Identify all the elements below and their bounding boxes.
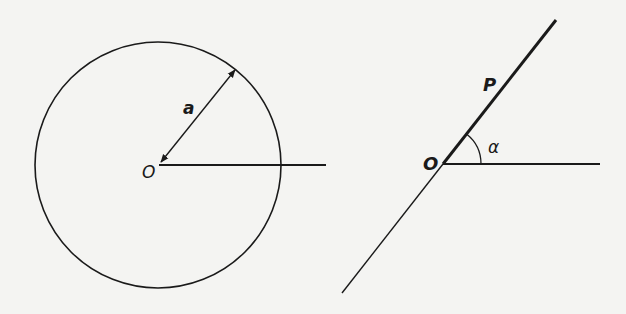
angle-label: α xyxy=(488,137,499,157)
origin-label: O xyxy=(142,162,155,182)
ray-op xyxy=(443,20,556,164)
radius-label: a xyxy=(183,98,194,118)
point-label: P xyxy=(483,74,496,95)
radius-arrow xyxy=(161,70,235,162)
angle-arc xyxy=(467,134,482,164)
extension-line xyxy=(342,164,443,293)
circle-figure: a O xyxy=(35,42,326,288)
ray-figure: P α O xyxy=(342,20,600,293)
origin-label: O xyxy=(423,153,438,174)
diagram-canvas: a O P α O xyxy=(0,0,626,314)
